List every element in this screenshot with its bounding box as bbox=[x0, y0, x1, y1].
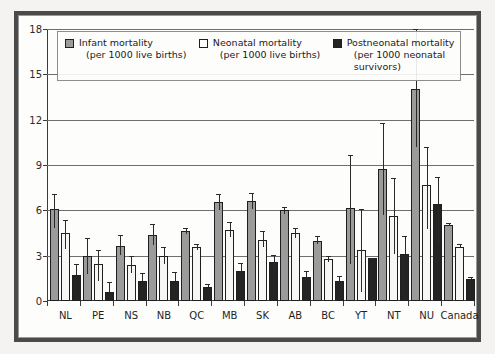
error-cap-top bbox=[435, 177, 440, 178]
error-bar-post-nl bbox=[76, 264, 77, 275]
error-cap-top bbox=[304, 271, 309, 272]
error-cap-top bbox=[380, 123, 385, 124]
x-tick-mark bbox=[244, 301, 245, 306]
x-tick-mark bbox=[211, 301, 212, 306]
bar-neonatal-bc bbox=[324, 259, 333, 301]
error-cap-top bbox=[107, 282, 112, 283]
legend-swatch-infant-icon bbox=[65, 39, 74, 48]
bar-infant-qc bbox=[181, 231, 190, 301]
error-cap-top bbox=[402, 236, 407, 237]
bar-post-nt bbox=[400, 254, 409, 301]
x-axis-label-nt: NT bbox=[387, 310, 401, 321]
error-cap-top bbox=[183, 228, 188, 229]
error-bar-infant-nl bbox=[54, 194, 55, 229]
error-cap-top bbox=[446, 223, 451, 224]
error-cap-top bbox=[413, 29, 418, 30]
legend-entry-postneonatal: Postneonatal mortality (per 1000 neonata… bbox=[326, 32, 460, 73]
legend-label-neonatal-sub: (per 1000 live births) bbox=[213, 49, 320, 61]
x-tick-mark bbox=[474, 301, 475, 306]
error-bar-post-nu bbox=[438, 177, 439, 243]
x-axis-label-sk: SK bbox=[256, 310, 269, 321]
error-bar-post-mb bbox=[241, 263, 242, 271]
gridline bbox=[47, 29, 474, 30]
y-tick-mark bbox=[43, 256, 47, 257]
error-bar-infant-sk bbox=[252, 193, 253, 209]
error-bar-infant-mb bbox=[219, 194, 220, 211]
error-bar-post-ns bbox=[142, 273, 143, 281]
y-tick-mark bbox=[43, 120, 47, 121]
error-bar-post-nb bbox=[175, 272, 176, 280]
error-bar-neonatal-ab bbox=[295, 228, 296, 238]
error-cap-top bbox=[205, 284, 210, 285]
error-bar-infant-ab bbox=[284, 207, 285, 215]
gridline bbox=[47, 210, 474, 211]
error-bar-infant-ns bbox=[120, 235, 121, 255]
bar-infant-sk bbox=[247, 201, 256, 301]
legend-label-infant-main: Infant mortality bbox=[79, 37, 153, 48]
chart-figure: 0369121518 NLPENSNBQCMBSKABBCYTNTNUCanad… bbox=[0, 0, 495, 354]
bar-post-qc bbox=[203, 287, 212, 301]
error-cap-top bbox=[118, 235, 123, 236]
bar-infant-nb bbox=[148, 235, 157, 301]
error-bar-infant-nb bbox=[153, 224, 154, 245]
bar-infant-canada bbox=[444, 225, 453, 301]
error-cap-top bbox=[391, 178, 396, 179]
error-cap-top bbox=[52, 194, 57, 195]
y-tick-label: 15 bbox=[29, 69, 42, 80]
error-cap-top bbox=[337, 276, 342, 277]
error-cap-top bbox=[260, 231, 265, 232]
y-tick-mark bbox=[43, 29, 47, 30]
x-tick-mark bbox=[146, 301, 147, 306]
legend-entry-neonatal: Neonatal mortality (per 1000 live births… bbox=[192, 32, 326, 61]
x-axis-label-canada: Canada bbox=[441, 310, 479, 321]
bar-neonatal-canada bbox=[455, 247, 464, 301]
x-axis-label-bc: BC bbox=[321, 310, 335, 321]
error-cap-top bbox=[129, 256, 134, 257]
legend-swatch-neonatal-icon bbox=[199, 39, 208, 48]
error-cap-top bbox=[326, 256, 331, 257]
x-tick-mark bbox=[441, 301, 442, 306]
legend-swatch-postneonatal-icon bbox=[333, 39, 342, 48]
x-axis-label-ns: NS bbox=[124, 310, 138, 321]
error-bar-neonatal-nl bbox=[65, 220, 66, 249]
bar-infant-mb bbox=[214, 202, 223, 301]
bar-post-pe bbox=[105, 292, 114, 301]
error-cap-top bbox=[315, 236, 320, 237]
error-cap-top bbox=[74, 264, 79, 265]
error-bar-infant-pe bbox=[87, 238, 88, 274]
error-cap-top bbox=[96, 250, 101, 251]
bar-infant-ab bbox=[280, 210, 289, 301]
error-bar-neonatal-nb bbox=[164, 247, 165, 264]
error-cap-top bbox=[63, 220, 68, 221]
x-axis-label-qc: QC bbox=[189, 310, 204, 321]
x-axis-label-pe: PE bbox=[92, 310, 104, 321]
bar-infant-bc bbox=[313, 241, 322, 301]
bar-post-canada bbox=[466, 279, 475, 301]
bar-neonatal-mb bbox=[225, 230, 234, 301]
y-tick-label: 6 bbox=[36, 205, 42, 216]
error-bar-neonatal-yt bbox=[361, 209, 362, 292]
x-axis-label-nu: NU bbox=[419, 310, 434, 321]
error-cap-top bbox=[216, 194, 221, 195]
x-tick-mark bbox=[375, 301, 376, 306]
error-cap-top bbox=[194, 244, 199, 245]
bar-neonatal-ab bbox=[291, 233, 300, 301]
y-tick-mark bbox=[43, 165, 47, 166]
x-tick-mark bbox=[80, 301, 81, 306]
legend-label-neonatal: Neonatal mortality (per 1000 live births… bbox=[213, 37, 320, 61]
legend-label-neonatal-main: Neonatal mortality bbox=[213, 37, 302, 48]
error-cap-top bbox=[457, 244, 462, 245]
error-bar-neonatal-bc bbox=[328, 256, 329, 263]
legend-label-postneonatal: Postneonatal mortality (per 1000 neonata… bbox=[347, 37, 460, 73]
x-tick-mark bbox=[47, 301, 48, 306]
error-bar-infant-bc bbox=[317, 236, 318, 244]
x-tick-mark bbox=[343, 301, 344, 306]
error-bar-post-nt bbox=[405, 236, 406, 254]
x-tick-mark bbox=[408, 301, 409, 306]
gridline bbox=[47, 120, 474, 121]
error-cap-top bbox=[293, 228, 298, 229]
error-cap-top bbox=[161, 247, 166, 248]
legend-label-postneonatal-main: Postneonatal mortality bbox=[347, 37, 455, 48]
y-tick-label: 3 bbox=[36, 250, 42, 261]
y-tick-label: 9 bbox=[36, 160, 42, 171]
